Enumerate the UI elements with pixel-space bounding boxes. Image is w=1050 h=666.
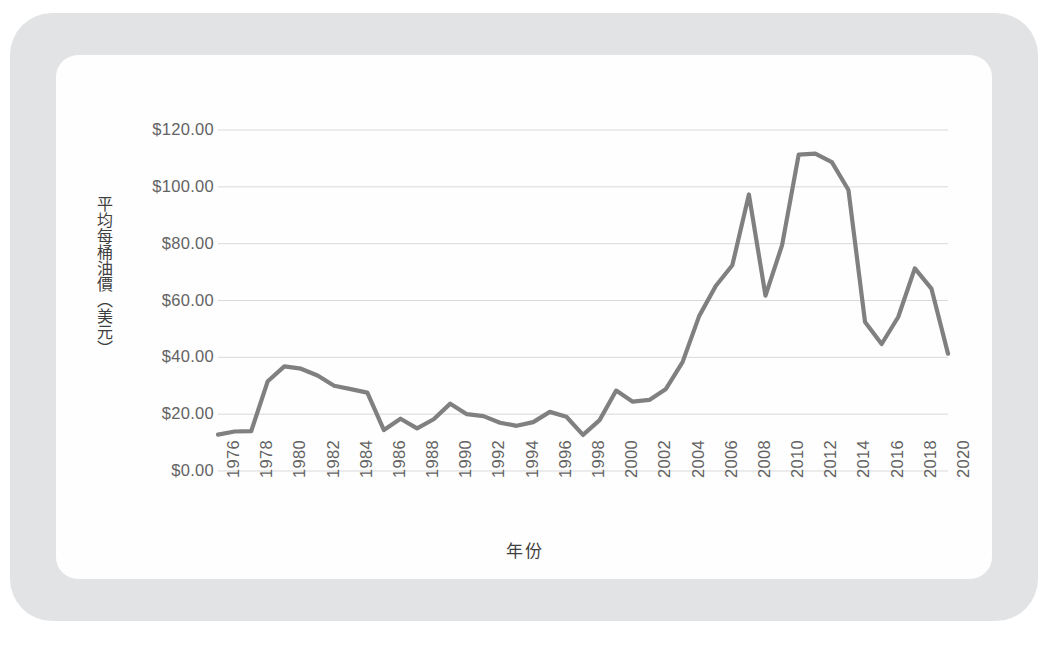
x-axis-title: 年份	[0, 537, 1050, 562]
gridlines	[218, 130, 948, 471]
plot-area	[0, 0, 1050, 666]
x-axis-tick-label: 1990	[456, 440, 475, 478]
x-axis-tick-label: 2020	[954, 440, 973, 478]
x-axis-tick-label: 2014	[854, 440, 873, 478]
x-axis-tick-label: 1980	[290, 440, 309, 478]
x-axis-tick-label: 1978	[257, 440, 276, 478]
x-axis-tick-label: 2012	[821, 440, 840, 478]
x-axis-tick-label: 2010	[788, 440, 807, 478]
x-axis-tick-label: 2006	[722, 440, 741, 478]
x-axis-tick-label: 1998	[589, 440, 608, 478]
x-axis-tick-label: 1994	[523, 440, 542, 478]
x-axis-tick-label: 1986	[390, 440, 409, 478]
x-axis-tick-label: 2018	[921, 440, 940, 478]
x-axis-tick-label: 2000	[622, 440, 641, 478]
x-axis-tick-label: 1996	[556, 440, 575, 478]
page-canvas: 平均每桶油價（美元） $120.00$100.00$80.00$60.00$40…	[0, 0, 1050, 666]
x-axis-tick-label: 1988	[423, 440, 442, 478]
x-axis-tick-label: 2016	[888, 440, 907, 478]
x-axis-tick-label: 1976	[224, 440, 243, 478]
x-axis-tick-label: 1992	[489, 440, 508, 478]
x-axis-tick-label: 2002	[655, 440, 674, 478]
data-series-line	[218, 154, 948, 435]
line-chart: 平均每桶油價（美元） $120.00$100.00$80.00$60.00$40…	[0, 0, 1050, 666]
x-axis-tick-label: 2008	[755, 440, 774, 478]
x-axis-tick-label: 1984	[357, 440, 376, 478]
x-axis-tick-label: 2004	[689, 440, 708, 478]
x-axis-tick-label: 1982	[324, 440, 343, 478]
